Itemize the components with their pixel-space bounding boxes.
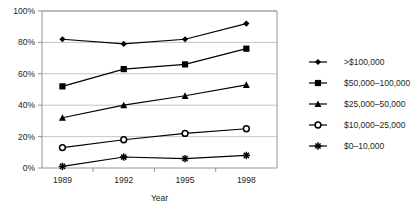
data-point	[59, 83, 65, 89]
chart-legend: >$100,000$50,000–100,000$25,000–50,000$1…	[309, 57, 410, 151]
x-axis-title: Year	[151, 193, 168, 203]
chart-figure: 0%20%40%60%80%100% 1989199219951998 Year…	[0, 0, 417, 211]
data-point	[60, 145, 66, 151]
series-line	[62, 49, 246, 87]
x-tick-label: 1995	[176, 175, 195, 185]
series-line	[62, 24, 246, 44]
data-point	[59, 36, 65, 42]
data-point	[243, 126, 249, 132]
data-point	[59, 163, 66, 170]
y-tick-label: 60%	[18, 69, 35, 79]
legend-marker	[315, 59, 321, 65]
data-point	[121, 137, 127, 143]
y-tick-label: 40%	[18, 100, 35, 110]
y-tick-label: 0%	[23, 163, 36, 173]
legend-label: $10,000–25,000	[344, 120, 406, 130]
y-axis-labels: 0%20%40%60%80%100%	[13, 6, 35, 173]
plot-frame	[42, 11, 277, 168]
data-point	[182, 131, 188, 137]
series-star	[59, 152, 250, 170]
chart-plot-area: 0%20%40%60%80%100% 1989199219951998 Year…	[0, 0, 417, 211]
data-point	[121, 66, 127, 72]
data-point	[120, 153, 127, 160]
gridlines	[42, 11, 277, 137]
series-square	[59, 46, 249, 90]
y-tick-label: 20%	[18, 132, 35, 142]
x-tick-label: 1989	[53, 175, 72, 185]
x-axis-labels: 1989199219951998	[53, 175, 256, 185]
data-series	[59, 20, 250, 170]
series-line	[62, 85, 246, 118]
legend-item: $25,000–50,000	[309, 99, 406, 109]
legend-item: $10,000–25,000	[309, 120, 406, 130]
legend-marker	[315, 122, 321, 128]
x-axis-ticks	[93, 168, 216, 172]
legend-marker	[314, 142, 321, 149]
legend-label: $0–10,000	[344, 141, 384, 151]
legend-label: $25,000–50,000	[344, 99, 406, 109]
data-point	[182, 61, 188, 67]
legend-item: $50,000–100,000	[309, 78, 410, 88]
data-point	[181, 155, 188, 162]
y-axis-ticks	[38, 11, 42, 168]
series-line	[62, 155, 246, 166]
data-point	[243, 81, 250, 88]
data-point	[121, 41, 127, 47]
legend-label: >$100,000	[344, 57, 385, 67]
y-tick-label: 100%	[13, 6, 35, 16]
legend-item: >$100,000	[309, 57, 385, 67]
series-line	[62, 129, 246, 148]
x-tick-label: 1998	[237, 175, 256, 185]
x-tick-label: 1992	[114, 175, 133, 185]
legend-label: $50,000–100,000	[344, 78, 410, 88]
y-tick-label: 80%	[18, 37, 35, 47]
data-point	[243, 152, 250, 159]
data-point	[243, 20, 249, 26]
series-triangle	[59, 81, 250, 121]
data-point	[182, 36, 188, 42]
series-open-circle	[60, 126, 250, 151]
legend-marker	[315, 80, 321, 86]
legend-item: $0–10,000	[309, 141, 384, 151]
series-diamond	[59, 20, 249, 47]
data-point	[243, 46, 249, 52]
